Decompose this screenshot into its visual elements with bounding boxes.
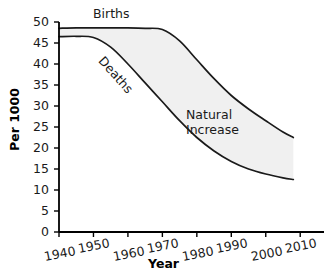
natural-increase-label-line2: Increase [186, 123, 239, 138]
y-tick-label: 15 [19, 163, 49, 176]
natural-increase-label-line1: Natural [186, 108, 239, 123]
y-axis-title: Per 1000 [7, 85, 22, 155]
y-tick-label: 0 [19, 226, 49, 239]
y-tick-label: 30 [19, 100, 49, 113]
y-tick-label: 5 [19, 205, 49, 218]
y-tick-label: 45 [19, 37, 49, 50]
y-tick-label: 25 [19, 121, 49, 134]
births-deaths-natural-increase-chart: 05101520253035404550 1940195019601970198… [0, 0, 327, 276]
births-curve-label: Births [93, 7, 130, 22]
natural-increase-band [59, 28, 293, 180]
natural-increase-label: Natural Increase [186, 108, 239, 138]
chart-plot-area [0, 0, 327, 276]
y-tick-label: 35 [19, 79, 49, 92]
y-tick-label: 40 [19, 58, 49, 71]
y-tick-label: 10 [19, 184, 49, 197]
x-axis-title: Year [0, 256, 327, 271]
y-tick-label: 20 [19, 142, 49, 155]
y-tick-label: 50 [19, 16, 49, 29]
